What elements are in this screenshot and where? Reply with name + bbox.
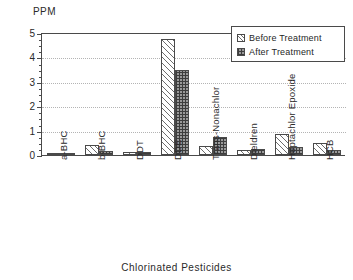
y-axis-tick-label: 3 xyxy=(9,77,35,88)
y-axis-minor-tick xyxy=(39,40,42,41)
legend-swatch-before-icon xyxy=(237,34,245,42)
y-axis-tick-label: 5 xyxy=(9,28,35,39)
y-axis-minor-tick xyxy=(39,65,42,66)
x-axis-label: DDT xyxy=(134,140,145,160)
y-axis-title: PPM xyxy=(33,6,56,17)
legend-item-after: After Treatment xyxy=(237,45,344,59)
x-axis-label: DDE xyxy=(172,139,183,160)
x-axis-label: a-BHC xyxy=(58,130,69,160)
y-axis-tick xyxy=(37,156,42,157)
x-axis-label: Trans-Nonachlor xyxy=(210,87,221,160)
y-axis-minor-tick xyxy=(39,101,42,102)
y-axis-tick-label: 4 xyxy=(9,52,35,63)
bar-chart: PPM 012345 a-BHCb-BHCDDTDDETrans-Nonachl… xyxy=(0,0,353,280)
y-axis-tick xyxy=(37,83,42,84)
y-axis-minor-tick xyxy=(39,89,42,90)
y-axis-tick-label: 1 xyxy=(9,126,35,137)
legend-item-before: Before Treatment xyxy=(237,31,344,45)
y-axis-minor-tick xyxy=(39,119,42,120)
y-axis-minor-tick xyxy=(39,71,42,72)
y-axis-minor-tick xyxy=(39,150,42,151)
gridline xyxy=(42,107,346,108)
y-axis-minor-tick xyxy=(39,138,42,139)
y-axis-tick xyxy=(37,107,42,108)
x-axis-label: HCB xyxy=(324,139,335,160)
x-axis-title: Chlorinated Pesticides xyxy=(0,262,353,273)
legend-swatch-after-icon xyxy=(237,48,245,56)
chart-legend: Before Treatment After Treatment xyxy=(231,26,345,62)
legend-label-after: After Treatment xyxy=(249,47,314,57)
gridline xyxy=(42,132,346,133)
x-axis-label: Heptachlor Epoxide xyxy=(286,73,297,160)
y-axis-minor-tick xyxy=(39,113,42,114)
x-axis-label: b-BHC xyxy=(96,130,107,160)
y-axis-minor-tick xyxy=(39,95,42,96)
gridline xyxy=(42,83,346,84)
bar-before xyxy=(161,39,175,155)
x-axis-label: Dieldren xyxy=(248,123,259,160)
y-axis-tick xyxy=(37,58,42,59)
legend-label-before: Before Treatment xyxy=(249,33,322,43)
x-axis-line xyxy=(41,155,345,156)
y-axis-tick-label: 2 xyxy=(9,101,35,112)
y-axis-tick xyxy=(37,34,42,35)
y-axis-minor-tick xyxy=(39,144,42,145)
y-axis-minor-tick xyxy=(39,46,42,47)
y-axis-minor-tick xyxy=(39,77,42,78)
y-axis-minor-tick xyxy=(39,126,42,127)
y-axis-tick xyxy=(37,132,42,133)
y-axis-minor-tick xyxy=(39,52,42,53)
y-axis-tick-label: 0 xyxy=(9,150,35,161)
